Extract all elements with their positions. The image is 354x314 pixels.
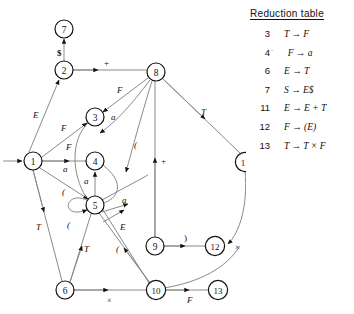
edge-label-8-3: F [116, 85, 123, 95]
reduction-table: Reduction table 3 T → F 4˙ F → a 6 E → T… [246, 0, 354, 314]
edge-1-6-arrow [33, 170, 44, 212]
table-row: 11 E → E + T [246, 102, 354, 121]
table-row: 13 T → T × F [246, 140, 354, 159]
reduction-table-title: Reduction table [246, 0, 354, 19]
node-12-label: 12 [211, 242, 220, 252]
node-6-label: 6 [63, 286, 68, 296]
edge-label-6-5: T [84, 244, 90, 254]
edge-5-5-selfloop [68, 198, 87, 212]
node-8-label: 8 [154, 68, 159, 78]
figure-root: 1 2 3 4 5 6 7 [0, 0, 354, 314]
node-11[interactable]: 11 [235, 152, 246, 171]
rule-number: 6 [246, 65, 270, 76]
edge-8-11-arrow [163, 79, 205, 119]
edge-label-9-12: ) [184, 233, 187, 243]
edge-label-1-2: E [32, 110, 39, 120]
rule-text: S → E$ [284, 85, 314, 95]
table-row: 7 S → E$ [246, 84, 354, 103]
edge-label-5-5: ( [67, 220, 71, 230]
edge-labels: $ + E F F a ( T F a ( + T a ( a E T ( ) … [32, 48, 240, 305]
edge-label-8-5: ( [134, 140, 138, 150]
node-12[interactable]: 12 [205, 236, 224, 255]
edge-5-9-arrow [102, 204, 128, 212]
edge-label-8-11: T [201, 107, 207, 117]
rule-text: F → a [288, 48, 313, 58]
reduction-table-rows: 3 T → F 4˙ F → a 6 E → T 7 S → E$ 11 E →… [246, 28, 354, 158]
edge-label-5-10: E [119, 222, 126, 232]
table-row: 4˙ F → a [246, 47, 354, 66]
node-4[interactable]: 4 [86, 152, 104, 170]
node-2[interactable]: 2 [55, 61, 73, 79]
rule-number: 13 [246, 140, 270, 151]
node-13-label: 13 [214, 286, 224, 296]
table-row: 6 E → T [246, 65, 354, 84]
node-5-label: 5 [93, 201, 98, 211]
edge-11-12 [228, 171, 246, 244]
state-transition-diagram: 1 2 3 4 5 6 7 [0, 0, 246, 314]
edge-label-1-3: F [60, 123, 67, 133]
node-6[interactable]: 6 [56, 281, 74, 299]
node-2-label: 2 [62, 66, 67, 76]
edge-label-10-5: ( [116, 244, 120, 254]
edge-label-1-4b: a [63, 164, 68, 174]
edge-label-5-4: a [84, 176, 89, 186]
node-7[interactable]: 7 [55, 20, 73, 38]
node-13[interactable]: 13 [208, 280, 227, 299]
edge-label-1-4: F [65, 142, 72, 152]
table-row: 12 F → (E) [246, 121, 354, 140]
edge-6-5-arrow [70, 246, 82, 282]
edge-label-1-6: T [36, 222, 42, 232]
edge-label-1-5: ( [62, 187, 66, 197]
edge-5-10-arrow [103, 210, 124, 222]
rule-text: F → (E) [284, 122, 316, 132]
node-1[interactable]: 1 [24, 152, 42, 170]
edge-10-11 [164, 246, 240, 288]
rule-text: E → E + T [284, 103, 326, 113]
node-7-label: 7 [62, 25, 67, 35]
node-4-label: 4 [93, 157, 98, 167]
rule-number: 4 [246, 47, 270, 58]
node-8[interactable]: 8 [147, 63, 165, 81]
edge-label-10-13: F [186, 295, 193, 305]
edge-label-5-9: a [122, 195, 127, 205]
rule-text: T → F [284, 29, 309, 39]
node-1-label: 1 [31, 157, 36, 167]
rule-text: T → T × F [284, 141, 325, 151]
edge-10-5-arrow [124, 248, 150, 283]
edge-8-4 [100, 80, 150, 133]
rule-number: 7 [246, 84, 270, 95]
node-3-label: 3 [93, 113, 98, 123]
rule-number-prime: ˙ [271, 49, 274, 58]
nodes: 1 2 3 4 5 6 7 [24, 20, 246, 300]
table-row: 3 T → F [246, 28, 354, 47]
node-9-label: 9 [153, 242, 158, 252]
edge-label-2-7: $ [57, 48, 62, 58]
edge-8-3 [103, 78, 148, 112]
edge-label-6-10: × [107, 296, 112, 305]
edge-label-2-8: + [104, 58, 109, 68]
edge-label-8-4: a [111, 112, 116, 122]
edge-label-11-12: × [235, 243, 240, 252]
node-10[interactable]: 10 [146, 280, 165, 299]
node-10-label: 10 [152, 286, 162, 296]
edge-label-9-8: + [161, 156, 166, 166]
node-5[interactable]: 5 [86, 196, 104, 214]
rule-text: E → T [284, 66, 309, 76]
node-3[interactable]: 3 [86, 108, 104, 126]
node-9[interactable]: 9 [146, 237, 164, 255]
rule-number: 11 [246, 102, 270, 113]
rule-number: 12 [246, 121, 270, 132]
rule-number: 3 [246, 28, 270, 39]
